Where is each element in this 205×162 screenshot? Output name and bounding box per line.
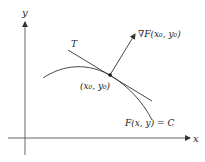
x-axis-label: x — [193, 133, 199, 144]
gradient-label: ∇F(x₀, y₀) — [138, 29, 181, 39]
tangent-label: T — [71, 39, 78, 49]
point-label: (x₀, y₀) — [80, 81, 111, 91]
point-x0-y0 — [108, 73, 112, 77]
curve-label: F(x, y) = C — [124, 118, 174, 128]
gradient-diagram: y x T ∇F(x₀, y₀) (x₀, y₀) F(x, y) = C — [0, 0, 205, 162]
gradient-vector — [110, 34, 135, 75]
y-axis-label: y — [21, 7, 28, 18]
level-curve — [43, 67, 152, 120]
